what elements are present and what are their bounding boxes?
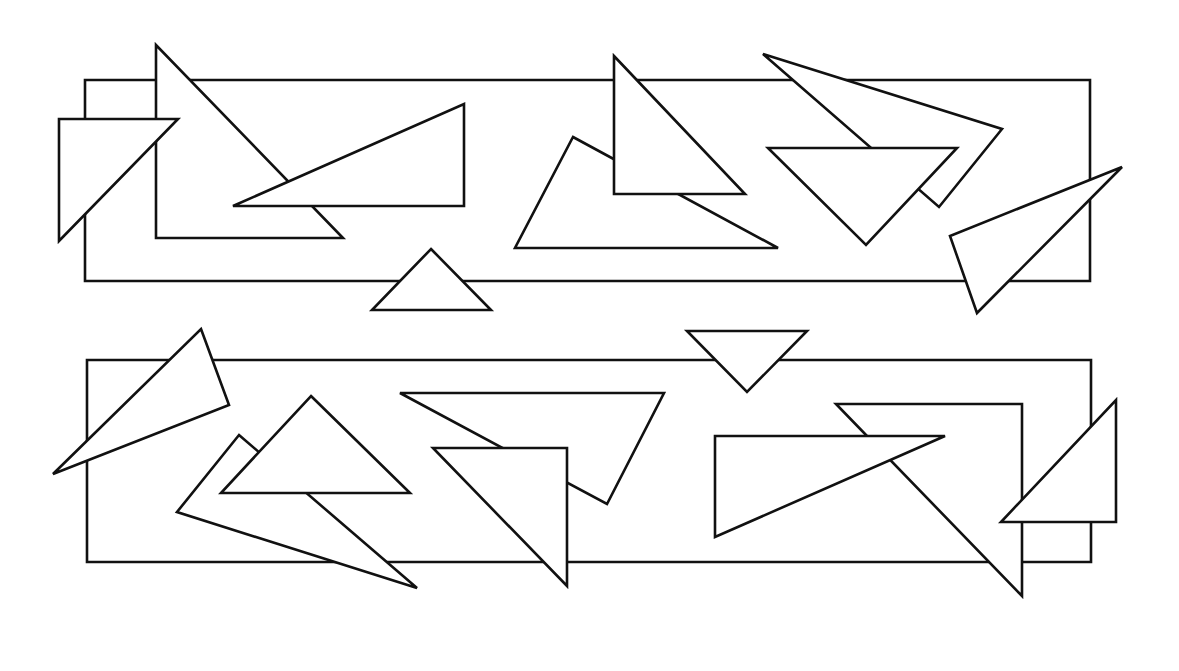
shapes-figure [0,0,1179,671]
figure-svg [0,0,1179,671]
bottom-panel [53,329,1116,596]
top-panel [59,45,1122,313]
